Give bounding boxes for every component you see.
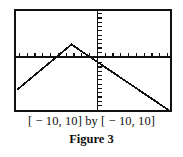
viewing-window-caption: [ − 10, 10] by [ − 10, 10]: [0, 113, 183, 129]
figure-caption-block: [ − 10, 10] by [ − 10, 10] Figure 3: [0, 113, 183, 147]
x-axis: [16, 56, 170, 58]
figure-number-label: Figure 3: [0, 131, 183, 147]
figure-3-container: [ − 10, 10] by [ − 10, 10] Figure 3: [0, 0, 183, 157]
graphing-calculator-screen: [14, 9, 172, 112]
plot-area: [16, 11, 170, 110]
